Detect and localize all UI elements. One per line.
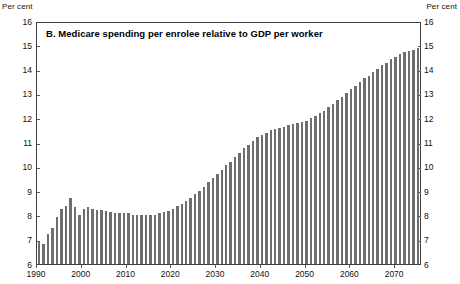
x-axis-tick-mark: [170, 265, 171, 268]
y-axis-tick-label-left: 12: [14, 115, 32, 124]
y-axis-tick-label-right: 7: [424, 236, 442, 245]
y-axis-tick-mark: [37, 95, 40, 96]
figure-panel-b: Per cent Per cent B. Medicare spending p…: [0, 0, 460, 284]
y-axis-tick-label-left: 10: [14, 163, 32, 172]
y-axis-tick-mark: [418, 119, 421, 120]
x-axis-tick-label: 2000: [71, 269, 90, 279]
x-axis-tick-label: 2010: [116, 269, 135, 279]
x-axis-tick-mark: [260, 265, 261, 268]
bar-series: [37, 23, 420, 264]
x-axis-tick-mark: [215, 265, 216, 268]
y-axis-tick-label-right: 8: [424, 212, 442, 221]
y-axis-tick-mark: [418, 216, 421, 217]
chart-title: B. Medicare spending per enrolee relativ…: [46, 28, 323, 39]
y-axis-tick-mark: [37, 168, 40, 169]
y-axis-tick-label-left: 9: [14, 188, 32, 197]
x-axis-tick-mark: [36, 265, 37, 268]
y-axis-tick-label-right: 15: [424, 42, 442, 51]
y-axis-tick-mark: [37, 144, 40, 145]
y-axis-tick-mark: [418, 144, 421, 145]
y-axis-tick-label-left: 6: [14, 261, 32, 270]
x-axis-tick-mark: [305, 265, 306, 268]
y-axis-tick-mark: [418, 95, 421, 96]
y-axis-tick-label-right: 12: [424, 115, 442, 124]
y-axis-tick-label-left: 8: [14, 212, 32, 221]
y-axis-tick-label-left: 14: [14, 66, 32, 75]
x-axis-tick-label: 2020: [161, 269, 180, 279]
y-axis-tick-mark: [37, 216, 40, 217]
x-axis-tick-label: 2060: [340, 269, 359, 279]
x-axis-tick-mark: [349, 265, 350, 268]
y-axis-tick-label-left: 15: [14, 42, 32, 51]
x-axis-tick-label: 1990: [27, 269, 46, 279]
x-axis-tick-mark: [126, 265, 127, 268]
y-axis-unit-label-left: Per cent: [2, 2, 33, 11]
y-axis-tick-mark: [37, 71, 40, 72]
y-axis-tick-label-right: 10: [424, 163, 442, 172]
y-axis-tick-mark: [418, 168, 421, 169]
y-axis-tick-label-right: 13: [424, 90, 442, 99]
y-axis-tick-label-left: 11: [14, 139, 32, 148]
y-axis-tick-label-right: 16: [424, 18, 442, 27]
x-axis-tick-label: 2070: [385, 269, 404, 279]
y-axis-tick-mark: [418, 241, 421, 242]
x-axis-tick-label: 2040: [250, 269, 269, 279]
y-axis-tick-mark: [37, 192, 40, 193]
bar: [416, 48, 420, 264]
y-axis-tick-mark: [418, 71, 421, 72]
y-axis-tick-mark: [37, 119, 40, 120]
x-axis-tick-mark: [394, 265, 395, 268]
y-axis-tick-mark: [418, 192, 421, 193]
y-axis-unit-label-right: Per cent: [426, 2, 457, 11]
y-axis-tick-label-right: 11: [424, 139, 442, 148]
x-axis-tick-label: 2050: [295, 269, 314, 279]
x-axis-tick-label: 2030: [206, 269, 225, 279]
y-axis-tick-label-left: 7: [14, 236, 32, 245]
x-axis-tick-mark: [81, 265, 82, 268]
y-axis-tick-mark: [418, 46, 421, 47]
plot-area: [36, 22, 421, 265]
y-axis-tick-mark: [37, 241, 40, 242]
y-axis-tick-mark: [37, 46, 40, 47]
y-axis-tick-label-right: 14: [424, 66, 442, 75]
y-axis-tick-label-right: 6: [424, 261, 442, 270]
y-axis-tick-label-left: 13: [14, 90, 32, 99]
y-axis-tick-label-left: 16: [14, 18, 32, 27]
y-axis-tick-label-right: 9: [424, 188, 442, 197]
